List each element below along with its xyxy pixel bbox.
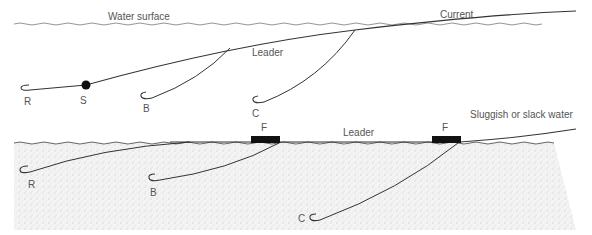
hook-R-icon [21, 85, 30, 90]
bottom-diagram: Sluggish or slack water F F Leader R B C [14, 109, 576, 230]
rigging-diagram: Water surface Current R S B C Leader Slu… [0, 0, 592, 235]
dropper-C [264, 30, 355, 102]
line-to-R [30, 85, 86, 90]
leader-label-bottom: Leader [343, 127, 375, 138]
sinker-S [82, 81, 91, 90]
sinker-S-label: S [80, 95, 87, 106]
hook-C-icon [253, 96, 264, 103]
water-surface-line [14, 23, 542, 25]
hook-C-bottom-label: C [298, 213, 305, 224]
float-F2-label: F [442, 122, 448, 133]
main-line [86, 11, 576, 85]
sluggish-water-label: Sluggish or slack water [470, 109, 573, 120]
float-F1 [251, 136, 280, 143]
float-F1-label: F [261, 122, 267, 133]
water-surface-label: Water surface [108, 11, 170, 22]
top-diagram: Water surface Current R S B C Leader [14, 9, 576, 119]
slack-water-area [14, 142, 576, 230]
float-F2 [432, 136, 461, 143]
dropper-B [152, 48, 230, 98]
hook-B-icon [141, 92, 152, 99]
hook-R-bottom-label: R [28, 179, 35, 190]
hook-R-label: R [24, 96, 31, 107]
leader-label-top: Leader [252, 47, 284, 58]
hook-B-label: B [143, 103, 150, 114]
hook-C-label: C [252, 108, 259, 119]
hook-B-bottom-label: B [150, 187, 157, 198]
